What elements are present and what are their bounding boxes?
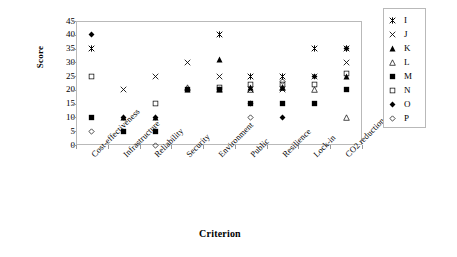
y-axis-tick-mark: [72, 35, 76, 36]
y-axis-tick-mark: [72, 131, 76, 132]
y-axis-tick-mark: [72, 76, 76, 77]
legend-marker-icon: [384, 70, 400, 82]
y-axis-title: Score: [35, 27, 45, 87]
x-axis-tick-mark: [76, 145, 77, 149]
legend: IJKLMNOP: [383, 8, 426, 128]
legend-item-label: M: [400, 71, 412, 81]
legend-item-p[interactable]: P: [384, 111, 425, 125]
y-axis-tick-mark: [72, 90, 76, 91]
legend-marker-icon: [384, 42, 400, 54]
legend-item-label: N: [400, 85, 411, 95]
chart-root: Score 051015202530354045 Cost-effectiven…: [0, 0, 457, 257]
y-axis-tick-mark: [72, 21, 76, 22]
legend-marker-icon: [384, 14, 400, 26]
legend-marker-icon: [384, 56, 400, 68]
legend-item-label: K: [400, 43, 411, 53]
legend-item-j[interactable]: J: [384, 27, 425, 41]
legend-item-n[interactable]: N: [384, 83, 425, 97]
y-axis-tick-mark: [72, 117, 76, 118]
legend-item-i[interactable]: I: [384, 13, 425, 27]
legend-item-l[interactable]: L: [384, 55, 425, 69]
legend-item-o[interactable]: O: [384, 97, 425, 111]
y-axis-tick-mark: [72, 49, 76, 50]
legend-item-m[interactable]: M: [384, 69, 425, 83]
x-axis-title: Criterion: [130, 228, 310, 239]
legend-item-label: P: [400, 113, 409, 123]
legend-item-label: J: [400, 29, 408, 39]
legend-item-label: L: [400, 57, 410, 67]
y-axis-tick-mark: [72, 62, 76, 63]
y-axis-tick-mark: [72, 104, 76, 105]
legend-marker-icon: [384, 98, 400, 110]
legend-marker-icon: [384, 112, 400, 124]
legend-marker-icon: [384, 84, 400, 96]
legend-item-label: I: [400, 15, 407, 25]
legend-item-label: O: [400, 99, 411, 109]
legend-item-k[interactable]: K: [384, 41, 425, 55]
legend-marker-icon: [384, 28, 400, 40]
